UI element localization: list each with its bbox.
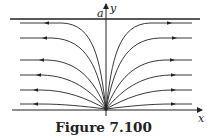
- arrowheads-right: [167, 21, 177, 105]
- trajectories-right: [106, 23, 192, 109]
- arrowheads-left: [33, 21, 49, 105]
- origin-point: [104, 107, 108, 111]
- trajectories-left: [20, 23, 106, 109]
- asymptote-label: a: [97, 7, 104, 20]
- figure-caption: Figure 7.100: [0, 119, 207, 135]
- y-axis-label: y: [109, 2, 117, 15]
